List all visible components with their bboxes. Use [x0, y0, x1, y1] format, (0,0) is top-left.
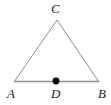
triangle-side-AC [14, 20, 57, 82]
vertex-label-b: B [98, 87, 106, 100]
triangle-side-CB [57, 20, 99, 82]
point-d-dot [53, 78, 60, 85]
geometry-figure: C A D B [0, 0, 111, 105]
vertex-label-c: C [51, 2, 60, 15]
vertex-label-a: A [7, 87, 15, 100]
vertex-label-d: D [51, 87, 60, 100]
